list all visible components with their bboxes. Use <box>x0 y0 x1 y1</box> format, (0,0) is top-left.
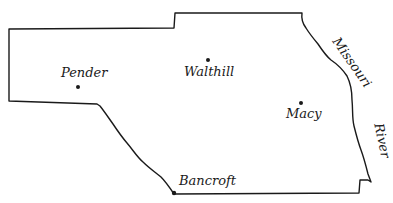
town-label-macy: Macy <box>286 107 322 120</box>
town-label-walthill: Walthill <box>184 65 234 78</box>
bancroft-marker-icon <box>172 191 176 195</box>
county-map: Pender Walthill Macy Bancroft Missouri R… <box>0 0 393 203</box>
town-label-bancroft: Bancroft <box>179 174 236 187</box>
town-label-pender: Pender <box>61 66 107 79</box>
pender-marker-icon <box>76 85 80 89</box>
county-boundary <box>9 13 371 194</box>
macy-marker-icon <box>299 101 303 105</box>
walthill-marker-icon <box>206 58 210 62</box>
